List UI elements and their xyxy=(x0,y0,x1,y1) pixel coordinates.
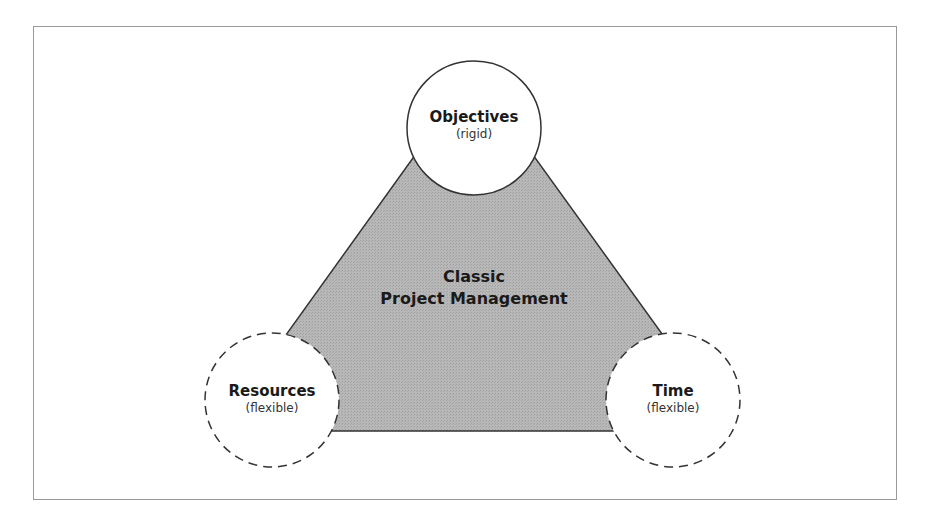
resources-qualifier: (flexible) xyxy=(205,400,339,416)
time-qualifier: (flexible) xyxy=(606,400,740,416)
center-title-line1: Classic xyxy=(374,266,574,288)
objectives-qualifier: (rigid) xyxy=(407,126,541,142)
diagram-graphic xyxy=(0,0,926,523)
time-title: Time xyxy=(606,382,740,400)
objectives-node: Objectives (rigid) xyxy=(407,108,541,142)
objectives-title: Objectives xyxy=(407,108,541,126)
resources-node: Resources (flexible) xyxy=(205,382,339,416)
time-node: Time (flexible) xyxy=(606,382,740,416)
center-title-line2: Project Management xyxy=(374,288,574,310)
center-label: Classic Project Management xyxy=(374,266,574,310)
resources-title: Resources xyxy=(205,382,339,400)
